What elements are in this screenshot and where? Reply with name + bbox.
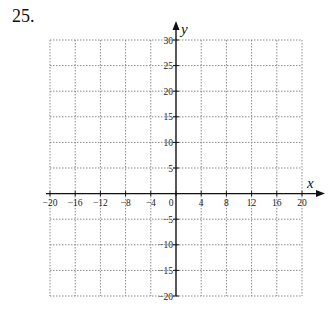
x-tick-label: −12 (93, 198, 108, 208)
x-tick-label: −4 (146, 198, 156, 208)
y-tick-label: −5 (163, 215, 173, 225)
y-tick-label: −15 (158, 266, 173, 276)
y-axis-label: y (179, 21, 188, 37)
x-tick-label: −20 (43, 198, 58, 208)
x-tick-label: −16 (68, 198, 83, 208)
coordinate-grid: −20−16−12−8−404812162030252015105−5−10−1… (0, 0, 334, 316)
y-axis-arrow-icon (173, 21, 180, 30)
x-tick-label: 20 (297, 198, 307, 208)
x-tick-label: 4 (199, 198, 204, 208)
y-tick-label: −10 (158, 240, 173, 250)
x-tick-label: 12 (247, 198, 257, 208)
y-tick-label: 15 (164, 112, 174, 122)
y-tick-label: 20 (164, 87, 174, 97)
x-axis-label: x (306, 175, 314, 191)
y-tick-label: 10 (164, 138, 174, 148)
x-axis-arrow-icon (316, 190, 325, 197)
x-tick-label: 8 (224, 198, 229, 208)
y-tick-label: 5 (168, 164, 173, 174)
y-tick-label: 30 (164, 36, 174, 46)
y-tick-label: −20 (158, 292, 173, 302)
x-tick-label: 0 (169, 198, 174, 208)
x-tick-label: −8 (121, 198, 131, 208)
x-tick-label: 16 (272, 198, 282, 208)
y-tick-label: 25 (164, 61, 174, 71)
